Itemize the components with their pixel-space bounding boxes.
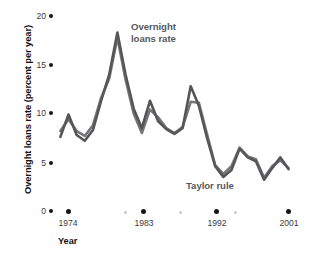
x-tick-label-2001: 2001 xyxy=(272,218,306,228)
x-tick-label-1983: 1983 xyxy=(127,218,161,228)
y-tick-label-15: 15 xyxy=(26,60,46,70)
x-tick-dot-2001 xyxy=(286,209,291,214)
series-group xyxy=(60,33,288,180)
x-tick-dot-minor-1977 xyxy=(124,211,127,214)
overnight-loans-rate-annotation-line1: Overnight xyxy=(131,21,176,33)
x-tick-dot-minor-1995 xyxy=(234,211,237,214)
x-tick-label-1974: 1974 xyxy=(51,218,85,228)
y-tick-label-10: 10 xyxy=(26,108,46,118)
overnight-loans-rate-annotation: Overnight loans rate xyxy=(131,21,176,44)
overnight-loans-rate-annotation-line2: loans rate xyxy=(131,33,176,45)
y-tick-dot-15 xyxy=(49,63,53,67)
y-tick-label-5: 5 xyxy=(26,158,46,168)
y-tick-dot-0 xyxy=(49,209,53,213)
x-tick-label-1992: 1992 xyxy=(200,218,234,228)
x-axis-title: Year xyxy=(58,236,77,246)
x-tick-dot-1992 xyxy=(214,209,219,214)
y-tick-dot-10 xyxy=(49,111,53,115)
x-tick-dot-minor-1986 xyxy=(179,211,182,214)
series-line-taylor-rule xyxy=(60,37,288,177)
y-tick-label-0: 0 xyxy=(26,206,46,216)
y-tick-dot-20 xyxy=(49,14,53,18)
taylor-rule-annotation: Taylor rule xyxy=(186,180,234,192)
y-tick-label-20: 20 xyxy=(26,11,46,21)
chart-container: Overnight loans rate (percent per year) … xyxy=(0,0,309,254)
x-tick-dot-1983 xyxy=(141,209,146,214)
x-tick-dot-1974 xyxy=(66,209,71,214)
y-tick-dot-5 xyxy=(49,161,53,165)
